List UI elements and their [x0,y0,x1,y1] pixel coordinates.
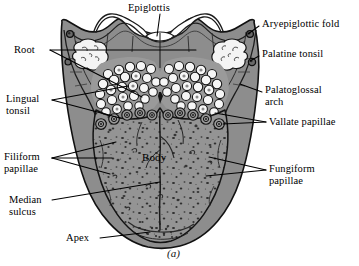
tongue-anatomy-diagram [0,0,359,266]
label-body: Body [142,152,166,164]
label-epiglottis: Epiglottis [128,2,170,14]
label-lingual-tonsil: Lingual tonsil [6,93,39,116]
label-aryepiglottic-fold: Aryepiglottic fold [262,18,339,30]
label-vallate-papillae: Vallate papillae [269,116,336,128]
label-apex: Apex [66,232,89,244]
label-root: Root [14,44,35,56]
label-filiform-papillae: Filiform papillae [4,151,40,174]
label-median-sulcus: Median sulcus [9,194,42,217]
label-fungiform-papillae: Fungiform papillae [269,163,315,186]
figure-caption: (a) [167,247,180,259]
label-palatine-tonsil: Palatine tonsil [262,48,323,60]
label-palatoglossal-arch: Palatoglossal arch [265,84,322,107]
